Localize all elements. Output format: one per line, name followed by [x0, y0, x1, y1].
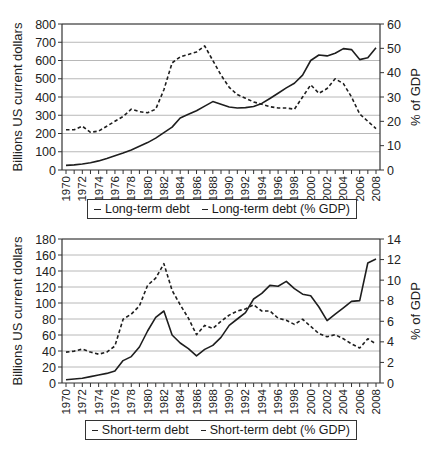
- x-tick-label: 2000: [305, 389, 317, 415]
- figure: 0100200300400500600700800010203040506019…: [0, 0, 437, 453]
- y-tick-label: 0: [49, 164, 56, 178]
- y2-tick-label: 8: [387, 294, 394, 308]
- y2-tick-label: 30: [387, 91, 401, 105]
- solid-line-swatch-icon: [92, 430, 98, 431]
- x-tick-label: 2002: [321, 389, 333, 415]
- y2-tick-label: 20: [387, 115, 401, 129]
- x-tick-label: 1976: [109, 176, 121, 202]
- legend-label-short-term-debt: Short-term debt: [102, 423, 189, 437]
- y-tick-label: 140: [35, 265, 56, 279]
- legend-long-term: Long-term debt Long-term debt (% GDP): [87, 199, 357, 219]
- y2-tick-label: 60: [387, 18, 401, 32]
- legend-label-long-term-debt: Long-term debt: [105, 202, 190, 216]
- y-axis-title: Billions US current dollars: [10, 22, 25, 171]
- y-axis-title: Billions US current dollars: [10, 236, 25, 385]
- y2-axis-title: % of GDP: [408, 282, 423, 340]
- y-tick-label: 100: [35, 145, 56, 159]
- dashed-line-swatch-icon: [202, 209, 208, 210]
- y-tick-label: 400: [35, 91, 56, 105]
- y2-tick-label: 0: [387, 164, 394, 178]
- x-tick-label: 1978: [125, 389, 137, 415]
- x-tick-label: 1974: [93, 388, 105, 414]
- dashed-series-line: [66, 264, 376, 355]
- x-tick-label: 1998: [288, 389, 300, 415]
- y-tick-label: 60: [42, 329, 56, 343]
- x-tick-label: 1986: [191, 176, 203, 202]
- x-tick-label: 1982: [158, 176, 170, 202]
- x-tick-label: 2000: [305, 176, 317, 202]
- legend-label-short-term-debt-gdp: Short-term debt (% GDP): [210, 423, 350, 437]
- x-tick-label: 2004: [337, 175, 349, 201]
- x-tick-label: 1992: [239, 389, 251, 415]
- x-tick-label: 1996: [272, 389, 284, 415]
- x-tick-label: 1994: [256, 175, 268, 201]
- x-tick-label: 2004: [337, 388, 349, 414]
- x-tick-label: 1972: [76, 389, 88, 415]
- y2-tick-label: 6: [387, 315, 394, 329]
- y-tick-label: 20: [42, 361, 56, 375]
- y-tick-label: 500: [35, 72, 56, 86]
- x-tick-label: 1970: [60, 389, 72, 415]
- long-term-debt-chart: 0100200300400500600700800010203040506019…: [0, 0, 437, 220]
- x-tick-label: 1972: [76, 176, 88, 202]
- x-tick-label: 1998: [288, 176, 300, 202]
- dashed-series-line: [66, 46, 376, 132]
- y-tick-label: 160: [35, 249, 56, 263]
- x-tick-label: 1994: [256, 388, 268, 414]
- legend-label-long-term-debt-gdp: Long-term debt (% GDP): [212, 202, 350, 216]
- x-tick-label: 1974: [93, 175, 105, 201]
- y-tick-label: 80: [42, 313, 56, 327]
- solid-line-swatch-icon: [94, 209, 101, 210]
- x-tick-label: 2008: [370, 389, 382, 415]
- x-tick-label: 1990: [223, 389, 235, 415]
- x-tick-label: 1984: [174, 388, 186, 414]
- y2-tick-label: 0: [387, 377, 394, 391]
- y-tick-label: 180: [35, 233, 56, 247]
- y-tick-label: 0: [49, 377, 56, 391]
- x-tick-label: 1980: [142, 389, 154, 415]
- x-tick-label: 1996: [272, 176, 284, 202]
- x-tick-label: 1982: [158, 389, 170, 415]
- y-tick-label: 200: [35, 127, 56, 141]
- y2-tick-label: 14: [387, 233, 401, 247]
- y2-tick-label: 4: [387, 335, 394, 349]
- x-tick-label: 1990: [223, 176, 235, 202]
- x-tick-label: 2006: [354, 176, 366, 202]
- x-tick-label: 1986: [191, 389, 203, 415]
- x-tick-label: 2008: [370, 176, 382, 202]
- y2-tick-label: 12: [387, 253, 401, 267]
- y-tick-label: 700: [35, 36, 56, 50]
- solid-series-line: [66, 48, 376, 166]
- y2-tick-label: 10: [387, 139, 401, 153]
- short-term-debt-chart: 0204060801001201401601800246810121419701…: [0, 220, 437, 453]
- x-tick-label: 2006: [354, 389, 366, 415]
- y-tick-label: 120: [35, 281, 56, 295]
- x-tick-label: 1980: [142, 176, 154, 202]
- y-tick-label: 100: [35, 297, 56, 311]
- x-tick-label: 1976: [109, 389, 121, 415]
- x-tick-label: 1988: [207, 389, 219, 415]
- y2-tick-label: 50: [387, 42, 401, 56]
- legend-short-term: Short-term debt Short-term debt (% GDP): [85, 420, 357, 440]
- y2-tick-label: 40: [387, 66, 401, 80]
- x-tick-label: 1984: [174, 175, 186, 201]
- y2-tick-label: 10: [387, 274, 401, 288]
- x-tick-label: 1992: [239, 176, 251, 202]
- y-tick-label: 300: [35, 109, 56, 123]
- y-tick-label: 600: [35, 54, 56, 68]
- dashed-line-swatch-icon: [201, 430, 206, 431]
- y2-axis-title: % of GDP: [408, 68, 423, 126]
- y-tick-label: 40: [42, 345, 56, 359]
- x-tick-label: 2002: [321, 176, 333, 202]
- x-tick-label: 1978: [125, 176, 137, 202]
- y2-tick-label: 2: [387, 356, 394, 370]
- y-tick-label: 800: [35, 18, 56, 32]
- x-tick-label: 1970: [60, 176, 72, 202]
- x-tick-label: 1988: [207, 176, 219, 202]
